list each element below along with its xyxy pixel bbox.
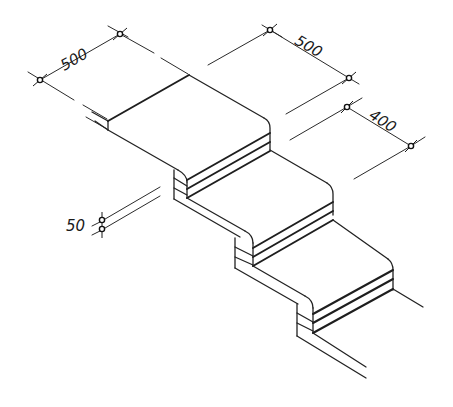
dimension-label-500-depth: 500 (292, 31, 326, 61)
dimension-node (117, 31, 122, 36)
dimension-tread-depth: 500 (208, 24, 359, 114)
dimension-riser-offset: 400 (290, 98, 425, 179)
stair-drawing: 500 500 400 50 (0, 0, 453, 407)
dimension-node (99, 217, 104, 222)
dimension-node (99, 226, 104, 231)
dimension-node (37, 77, 42, 82)
dimension-label-400: 400 (366, 106, 400, 137)
dimension-label-500-width: 500 (57, 45, 91, 75)
dimension-tread-width: 500 (28, 26, 154, 100)
dimension-node (267, 27, 272, 32)
dimension-node (344, 104, 349, 109)
dimension-layer-thickness: 50 (66, 187, 160, 238)
step-1 (174, 133, 333, 243)
dimension-node (408, 143, 413, 148)
step-3 (297, 270, 423, 378)
dimension-node (346, 75, 351, 80)
dimension-label-50: 50 (66, 217, 85, 235)
